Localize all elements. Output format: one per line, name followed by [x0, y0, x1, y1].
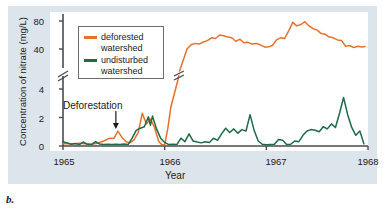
- legend-label-undisturbed-line1: undisturbed: [101, 55, 148, 65]
- legend-label-deforested-line1: deforested: [101, 32, 144, 42]
- legend-item-undisturbed: undisturbedwatershed: [84, 55, 148, 76]
- x-axis-title: Year: [165, 170, 185, 181]
- y-axis-title: Concentration of nitrate (mg/L): [17, 12, 28, 152]
- chart-graphics: [0, 0, 385, 216]
- legend-label-deforested-line2: watershed: [101, 43, 143, 53]
- figure-caption: b.: [6, 193, 14, 205]
- xtick-label-1965: 1965: [50, 156, 78, 167]
- xtick-label-1968: 1968: [354, 156, 382, 167]
- legend-item-deforested: deforestedwatershed: [84, 32, 144, 53]
- legend: deforestedwatershed undisturbedwatershed: [78, 26, 164, 79]
- legend-swatch-deforested: [84, 36, 97, 39]
- figure-panel: 80 40 4 2 0 1965 1966 1967 1968 Concentr…: [0, 0, 385, 216]
- legend-swatch-undisturbed: [84, 59, 97, 62]
- annotation-deforestation-label: Deforestation: [63, 100, 122, 111]
- xtick-label-1966: 1966: [156, 156, 184, 167]
- legend-label-deforested: deforestedwatershed: [101, 32, 144, 53]
- legend-label-undisturbed-line2: watershed: [101, 66, 143, 76]
- legend-label-undisturbed: undisturbedwatershed: [101, 55, 148, 76]
- xtick-label-1967: 1967: [262, 156, 290, 167]
